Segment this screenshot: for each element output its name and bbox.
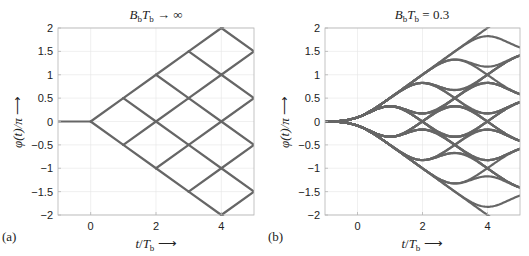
y-tick-label: 1 [47,69,53,81]
trellis-segment [156,75,189,98]
trellis-segment [221,192,254,215]
trellis-segment [221,122,254,145]
trellis-segment [221,75,254,98]
x-tick-label: 4 [484,220,490,232]
trellis-segment [221,51,254,74]
y-axis-ticks-a: −2−1.5−1−0.500.511.52 [31,22,61,221]
trellis-segment [221,168,254,191]
trellis-segment [156,122,189,145]
chart-title-b: BbTb = 0.3 [395,7,449,24]
y-tick-label: 2 [314,22,320,34]
y-tick-label: 0 [47,116,53,128]
y-tick-label: −0.5 [298,139,320,151]
x-tick-label: 0 [88,220,94,232]
trellis-segment [189,98,222,121]
x-tick-label: 2 [419,220,425,232]
x-tick-label: 0 [354,220,360,232]
y-tick-label: 1.5 [305,45,320,57]
y-tick-label: −1.5 [31,186,53,198]
trellis-segment [221,5,254,28]
y-tick-label: 0 [314,116,320,128]
trellis-segment [221,215,254,238]
trellis-segment [189,75,222,98]
y-axis-label-a: φ(t)/π ⟶ [10,96,25,148]
y-axis-label-b: φ(t)/π ⟶ [277,96,292,148]
trellis-segment [123,145,156,168]
chart-title-a: BbTb → ∞ [130,7,183,24]
trellis-segment [189,145,222,168]
chart-panel-b: −2−1.5−1−0.500.511.52 024 BbTb = 0.3 t/T… [268,7,520,253]
trellis-segment [156,98,189,121]
y-tick-label: 2 [47,22,53,34]
figure: −2−1.5−1−0.500.511.52 024 BbTb → ∞ t/Tb … [0,0,529,256]
chart-panel-a: −2−1.5−1−0.500.511.52 024 BbTb → ∞ t/Tb … [2,5,254,253]
trellis-segment [91,122,124,145]
trellis-segment [189,28,222,51]
y-tick-label: −0.5 [31,139,53,151]
trellis-segment [156,145,189,168]
y-tick-label: −1 [307,162,320,174]
y-axis-ticks-b: −2−1.5−1−0.500.511.52 [298,22,328,221]
y-tick-label: 1 [314,69,320,81]
panel-label-a: (a) [2,229,16,244]
x-axis-label-a: t/Tb ⟶ [135,236,176,253]
trellis-segment [221,28,254,51]
trellis-segment [91,98,124,121]
trellis-segment [123,98,156,121]
trellis-segment [221,145,254,168]
trellis-segment [156,168,189,191]
trellis-segment [189,192,222,215]
panel-label-b: (b) [268,229,283,244]
trellis-segment [156,51,189,74]
trellis-segment [221,98,254,121]
y-tick-label: −2 [307,209,320,221]
x-axis-label-b: t/Tb ⟶ [401,236,442,253]
trellis-segment [189,51,222,74]
x-tick-label: 4 [218,220,224,232]
x-tick-label: 2 [153,220,159,232]
trellis-segment [123,122,156,145]
y-tick-label: 0.5 [38,92,53,104]
trellis-segment [189,122,222,145]
y-tick-label: −1.5 [298,186,320,198]
trellis-segment [123,75,156,98]
trellis-segment [189,168,222,191]
y-tick-label: 0.5 [305,92,320,104]
y-tick-label: −1 [40,162,53,174]
y-tick-label: 1.5 [38,45,53,57]
y-tick-label: −2 [40,209,53,221]
